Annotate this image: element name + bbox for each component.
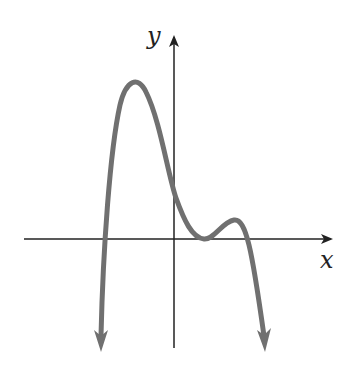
y-axis-label: y <box>147 22 161 50</box>
graph <box>0 0 353 366</box>
function-curve <box>101 82 264 336</box>
x-axis-label: x <box>320 246 334 274</box>
